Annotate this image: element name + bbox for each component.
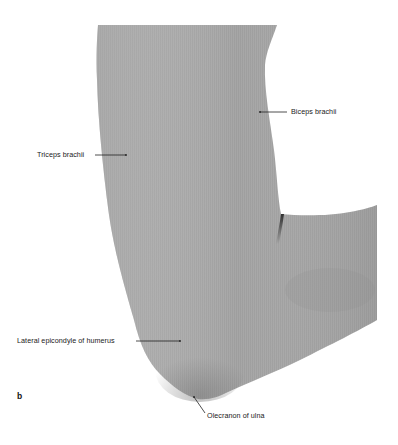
- label-lateral-epicondyle-of-humerus: Lateral epicondyle of humerus: [17, 337, 115, 344]
- forearm-shadow: [285, 268, 375, 312]
- leader-dot-triceps: [125, 154, 127, 156]
- arm-shading: [97, 25, 377, 399]
- elbow-shadow: [155, 338, 245, 402]
- label-olecranon-of-ulna: Olecranon of ulna: [207, 412, 265, 419]
- leader-dot-lateral-epicondyle: [179, 340, 181, 342]
- anatomy-figure: Biceps brachii Triceps brachii Lateral e…: [0, 0, 398, 445]
- leader-dot-biceps: [259, 111, 261, 113]
- panel-letter: b: [17, 392, 22, 401]
- arm-illustration: [0, 0, 398, 445]
- label-biceps-brachii: Biceps brachii: [291, 108, 336, 115]
- label-triceps-brachii: Triceps brachii: [37, 151, 84, 158]
- leader-dot-olecranon: [193, 396, 195, 398]
